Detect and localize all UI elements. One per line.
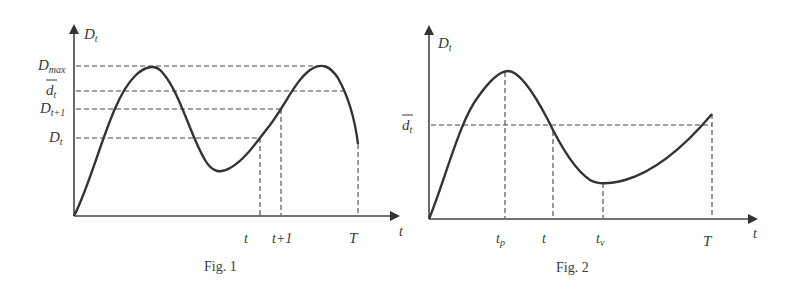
fig2-demand-curve <box>429 71 712 219</box>
fig1-x-axis-label: t <box>399 224 404 239</box>
fig1-x-tick-t1: t+1 <box>272 231 292 246</box>
fig1-y-tick-dt1: Dt+1 <box>39 100 65 118</box>
fig2-x-axis-label: t <box>753 226 758 241</box>
fig2-x-tick-t: t <box>542 231 547 246</box>
fig1-caption: Fig. 1 <box>204 259 237 274</box>
svg-text:dt: dt <box>46 82 57 100</box>
fig1-demand-curve <box>74 66 358 216</box>
fig1-x-tick-T: T <box>349 230 359 246</box>
svg-text:Dt: Dt <box>48 129 63 147</box>
fig1-y-tick-dbar: dt <box>46 80 57 100</box>
fig2-caption: Fig. 2 <box>556 260 589 275</box>
fig1-y-axis-label: Dt <box>83 26 98 44</box>
figures-canvas: Dmax dt Dt+1 Dt Dt t t+1 T t Fig. 1 <box>0 0 789 295</box>
fig2-y-axis-label: Dt <box>437 35 452 53</box>
svg-text:Dt+1: Dt+1 <box>39 100 65 118</box>
fig2-x-tick-tv: tv <box>596 231 605 248</box>
fig2-x-tick-T: T <box>703 233 713 249</box>
fig1-y-tick-dmax: Dmax <box>37 57 66 75</box>
fig2-y-tick-dbar: dt <box>402 115 413 135</box>
fig1-x-tick-t: t <box>244 231 249 246</box>
fig1-y-tick-dt: Dt <box>48 129 63 147</box>
figure-2: dt Dt tp t tv T t Fig. 2 <box>402 27 758 275</box>
fig2-x-tick-tp: tp <box>496 231 505 248</box>
figure-1: Dmax dt Dt+1 Dt Dt t t+1 T t Fig. 1 <box>37 26 404 274</box>
svg-text:dt: dt <box>402 117 413 135</box>
svg-text:Dmax: Dmax <box>37 57 66 75</box>
